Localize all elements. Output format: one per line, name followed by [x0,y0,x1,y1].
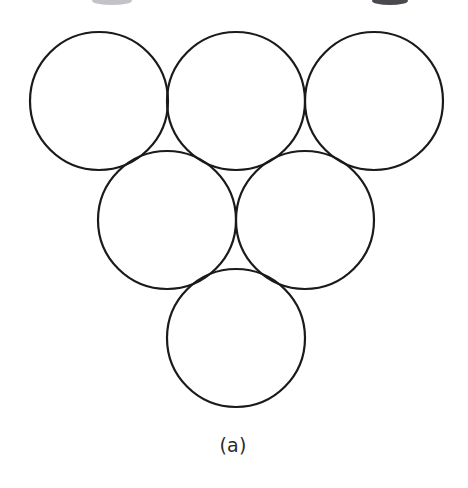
diagram-background [0,0,468,488]
circle-packing-diagram [0,0,468,488]
figure-container: (a) [0,0,468,488]
